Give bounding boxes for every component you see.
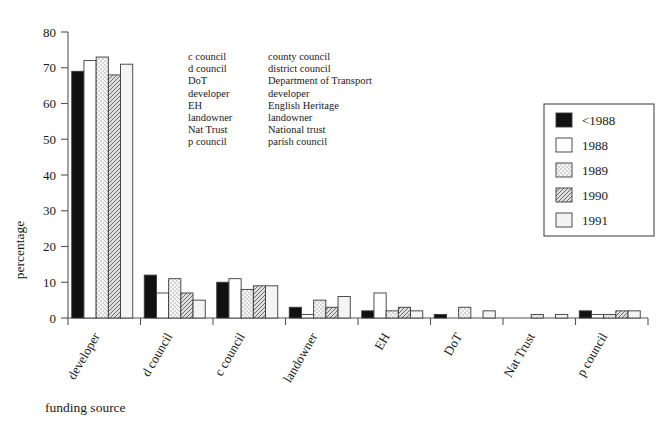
y-tick-label: 60	[43, 96, 56, 111]
legend-swatch-dark-hatched-swatch	[556, 188, 572, 202]
bar-developer-1988	[84, 61, 96, 318]
x-tick-label: Nat Trust	[500, 330, 538, 380]
x-tick-label: p council	[573, 330, 610, 379]
abbr-short: EH	[188, 100, 202, 111]
bar-eh-1988	[362, 311, 374, 318]
legend-label: 1990	[582, 188, 608, 203]
legend-label: 1989	[582, 163, 608, 178]
abbr-full: developer	[268, 88, 310, 99]
y-tick-label: 80	[43, 25, 56, 40]
legend-swatch-pale-gray-swatch	[556, 213, 572, 227]
bar-c-council-1991	[266, 286, 278, 318]
bar-eh-1990	[398, 307, 410, 318]
bar-landowner-1988	[289, 307, 301, 318]
abbr-short: c council	[188, 51, 226, 62]
abbr-full: National trust	[268, 124, 326, 135]
x-tick-label: developer	[64, 329, 103, 381]
y-tick-label: 20	[43, 239, 56, 254]
x-tick-label: c council	[211, 330, 248, 379]
y-tick-label: 30	[43, 203, 56, 218]
bar-p-council-1989	[604, 314, 616, 318]
bar-landowner-1988	[301, 314, 313, 318]
y-tick-label: 0	[50, 311, 57, 326]
legend: <19881988198919901991	[544, 104, 654, 236]
bar-d-council-1990	[181, 293, 193, 318]
x-tick-label: DoT	[440, 330, 465, 358]
bar-c-council-1988	[217, 282, 229, 318]
abbreviation-table: c councilcounty councild councildistrict…	[188, 51, 372, 147]
y-tick-label: 40	[43, 168, 56, 183]
bar-dot-1989	[459, 307, 471, 318]
x-tick-labels: developerd councilc councillandownerEHDo…	[64, 329, 610, 385]
x-axis-title: funding source	[45, 400, 126, 415]
bar-p-council-1988	[579, 311, 591, 318]
legend-label: 1988	[582, 138, 608, 153]
bar-p-council-1988	[591, 314, 603, 318]
bar-nat-trust-1991	[556, 314, 568, 318]
abbr-short: DoT	[188, 75, 208, 86]
legend-label: <1988	[582, 113, 615, 128]
x-axis	[68, 318, 648, 325]
legend-swatch-light-dotted-swatch	[556, 163, 572, 177]
bar-d-council-1988	[156, 293, 168, 318]
y-tick-label: 50	[43, 132, 56, 147]
abbr-short: developer	[188, 88, 230, 99]
bar-nat-trust-1989	[531, 314, 543, 318]
bar-developer-1989	[96, 57, 108, 318]
abbr-short: p council	[188, 136, 227, 147]
bar-developer-1991	[121, 64, 133, 318]
abbr-full: Department of Transport	[268, 75, 372, 86]
x-tick-label: EH	[371, 330, 393, 353]
x-tick-label: landowner	[280, 329, 321, 385]
bar-c-council-1990	[253, 286, 265, 318]
y-axis: 01020304050607080	[43, 25, 68, 326]
bar-d-council-1989	[169, 279, 181, 318]
bar-eh-1991	[411, 311, 423, 318]
bar-chart-figure: 01020304050607080 developerd councilc co…	[0, 0, 665, 432]
legend-label: 1991	[582, 213, 608, 228]
y-tick-label: 10	[43, 275, 56, 290]
bar-dot-1991	[483, 311, 495, 318]
abbr-full: district council	[268, 63, 331, 74]
y-axis-title: percentage	[12, 221, 27, 279]
abbr-short: d council	[188, 63, 227, 74]
x-tick-label: d council	[138, 330, 175, 379]
bar-landowner-1991	[338, 297, 350, 318]
bar-developer-1988	[72, 71, 84, 318]
abbr-full: English Heritage	[268, 100, 339, 111]
legend-swatch-white-swatch	[556, 138, 572, 152]
bar-eh-1988	[374, 293, 386, 318]
bar-landowner-1990	[326, 307, 338, 318]
chart-canvas: 01020304050607080 developerd councilc co…	[0, 0, 665, 432]
bar-eh-1989	[386, 311, 398, 318]
bar-dot-1988	[434, 314, 446, 318]
abbr-full: county council	[268, 51, 330, 62]
bar-c-council-1988	[229, 279, 241, 318]
bar-c-council-1989	[241, 289, 253, 318]
legend-swatch-solid-black-swatch	[556, 113, 572, 127]
bar-d-council-1988	[144, 275, 156, 318]
abbr-short: Nat Trust	[188, 124, 227, 135]
bar-p-council-1991	[628, 311, 640, 318]
abbr-full: parish council	[268, 136, 327, 147]
abbr-full: landowner	[268, 112, 313, 123]
bar-d-council-1991	[193, 300, 205, 318]
bar-developer-1990	[108, 75, 120, 318]
bars-layer	[72, 57, 641, 318]
bar-landowner-1989	[314, 300, 326, 318]
abbr-short: landowner	[188, 112, 233, 123]
y-tick-label: 70	[43, 60, 56, 75]
bar-p-council-1990	[616, 311, 628, 318]
